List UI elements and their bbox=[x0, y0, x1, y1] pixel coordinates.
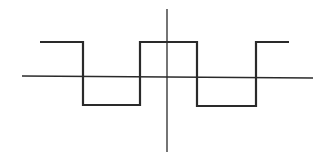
square-wave-diagram bbox=[0, 0, 327, 165]
background bbox=[0, 0, 327, 165]
